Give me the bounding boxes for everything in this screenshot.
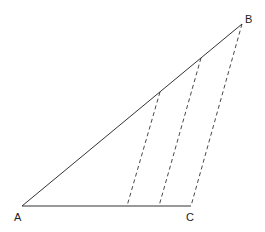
dashed-line-1 [127, 92, 160, 206]
vertex-label-b: B [245, 13, 252, 25]
dashed-line-bc [191, 24, 242, 206]
side-ab [22, 24, 242, 206]
vertex-label-c: C [186, 211, 194, 223]
dashed-line-2 [159, 58, 201, 206]
vertex-label-a: A [14, 211, 22, 223]
triangle-diagram: A B C [0, 0, 265, 232]
